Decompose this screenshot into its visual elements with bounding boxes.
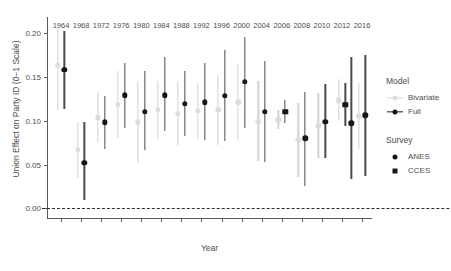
x-tick-mark	[61, 219, 62, 222]
legend-item-anes[interactable]: ANES	[386, 150, 451, 163]
data-point-anes	[115, 102, 120, 107]
plot-panel: 0.000.050.100.150.20 1964196819721976198…	[47, 17, 372, 219]
y-tick-label: 0.05	[1, 160, 41, 169]
data-point-anes	[75, 147, 80, 152]
legend-item-bivariate[interactable]: Bivariate	[386, 91, 451, 104]
legend-key-cces-icon	[386, 165, 404, 177]
y-tick-label: 0.15	[1, 72, 41, 81]
x-tick-mark	[121, 219, 122, 222]
data-point-anes	[62, 67, 67, 72]
data-point-cces	[276, 117, 281, 122]
data-point-anes	[82, 160, 87, 165]
data-point-anes	[195, 108, 200, 113]
legend-title-survey: Survey	[386, 135, 451, 145]
legend-item-cces[interactable]: CCES	[386, 164, 451, 177]
data-point-anes	[296, 137, 301, 142]
y-tick-label: 0.00	[1, 204, 41, 213]
x-tick-mark	[101, 219, 102, 222]
y-tick-label: 0.20	[1, 28, 41, 37]
legend-label-full: Full	[408, 107, 421, 116]
data-point-anes	[256, 119, 261, 124]
data-point-anes	[363, 113, 368, 118]
legend-key-bivariate-icon	[386, 92, 404, 104]
confidence-interval-bar	[351, 57, 352, 178]
x-tick-mark	[201, 219, 202, 222]
x-tick-mark	[322, 219, 323, 222]
confidence-interval-bar	[57, 28, 58, 110]
data-point-anes	[349, 121, 354, 126]
data-point-anes	[122, 92, 127, 97]
chart-legend: Model Bivariate Full Survey ANES	[386, 76, 451, 178]
data-point-anes	[222, 93, 227, 98]
legend-key-anes-icon	[386, 151, 404, 163]
legend-item-full[interactable]: Full	[386, 105, 451, 118]
legend-key-full-icon	[386, 106, 404, 118]
data-point-anes	[262, 109, 267, 114]
data-point-anes	[102, 120, 107, 125]
data-point-anes	[95, 114, 100, 119]
legend-label-bivariate: Bivariate	[408, 93, 439, 102]
data-point-anes	[55, 63, 60, 68]
data-point-cces	[282, 109, 287, 114]
x-tick-mark	[302, 219, 303, 222]
legend-title-model: Model	[386, 76, 451, 86]
data-point-anes	[182, 101, 187, 106]
x-tick-mark	[242, 219, 243, 222]
x-tick-mark	[222, 219, 223, 222]
data-point-cces	[343, 102, 348, 107]
legend-label-anes: ANES	[408, 152, 430, 161]
x-tick-mark	[81, 219, 82, 222]
data-point-anes	[235, 99, 240, 104]
data-point-anes	[302, 135, 307, 140]
legend-label-cces: CCES	[408, 166, 430, 175]
data-point-anes	[175, 111, 180, 116]
data-point-anes	[356, 114, 361, 119]
x-axis-title: Year	[47, 243, 372, 253]
legend-spacer	[386, 119, 451, 135]
data-point-anes	[142, 109, 147, 114]
chart-container: Union Effect on Party ID (0−1 Scale) 0.0…	[0, 0, 451, 271]
x-tick-mark	[362, 219, 363, 222]
data-point-anes	[202, 99, 207, 104]
data-point-anes	[162, 92, 167, 97]
x-tick-mark	[342, 219, 343, 222]
data-point-anes	[316, 123, 321, 128]
data-point-anes	[215, 107, 220, 112]
x-tick-mark	[282, 219, 283, 222]
x-tick-mark	[161, 219, 162, 222]
y-tick-label: 0.10	[1, 116, 41, 125]
data-point-anes	[323, 119, 328, 124]
y-axis-title: Union Effect on Party ID (0−1 Scale)	[11, 9, 21, 209]
data-point-anes	[155, 107, 160, 112]
x-tick-mark	[262, 219, 263, 222]
data-point-anes	[135, 120, 140, 125]
data-point-anes	[242, 79, 247, 84]
data-point-cces	[336, 98, 341, 103]
x-tick-mark	[181, 219, 182, 222]
x-tick-mark	[141, 219, 142, 222]
data-series-layer	[47, 17, 372, 219]
